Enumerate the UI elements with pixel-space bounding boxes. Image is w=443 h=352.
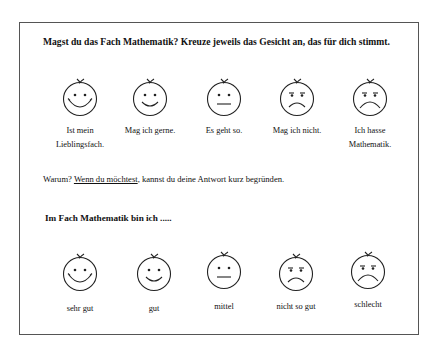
face-label-5: Ich hasse Mathematik. xyxy=(330,124,410,152)
big-frown-face-icon[interactable] xyxy=(348,247,388,291)
frown-face-icon[interactable] xyxy=(276,249,316,293)
rating-label-4: nicht so gut xyxy=(256,300,336,314)
neutral-face-icon[interactable] xyxy=(204,74,244,118)
smile-face-icon[interactable] xyxy=(130,74,170,118)
face-label-1: Ist mein Lieblingsfach. xyxy=(40,124,120,152)
why-underlined: Wenn du möchtest xyxy=(74,174,138,184)
frown-face-icon[interactable] xyxy=(277,74,317,118)
neutral-face-icon[interactable] xyxy=(204,247,244,291)
why-prefix: Warum? xyxy=(43,174,74,184)
face-label-4: Mag ich nicht. xyxy=(257,124,337,138)
label-line: Ist mein xyxy=(40,124,120,138)
rating-label-5: schlecht xyxy=(328,298,408,312)
label-line: Ich hasse xyxy=(330,124,410,138)
question-2-title: Im Fach Mathematik bin ich ..... xyxy=(45,213,172,223)
rating-label-2: gut xyxy=(114,302,194,316)
big-smile-face-icon[interactable] xyxy=(60,249,100,293)
label-line: Mathematik. xyxy=(330,138,410,152)
smile-face-icon[interactable] xyxy=(134,249,174,293)
face-label-3: Es geht so. xyxy=(184,124,264,138)
why-suffix: , kannst du deine Antwort kurz begründen… xyxy=(138,174,285,184)
rating-label-1: sehr gut xyxy=(40,302,120,316)
question-1-title: Magst du das Fach Mathematik? Kreuze jew… xyxy=(43,36,390,47)
rating-label-3: mittel xyxy=(184,300,264,314)
face-label-2: Mag ich gerne. xyxy=(110,124,190,138)
big-frown-face-icon[interactable] xyxy=(350,74,390,118)
why-prompt: Warum? Wenn du möchtest, kannst du deine… xyxy=(43,174,284,184)
big-smile-face-icon[interactable] xyxy=(60,74,100,118)
label-line: Lieblingsfach. xyxy=(40,138,120,152)
